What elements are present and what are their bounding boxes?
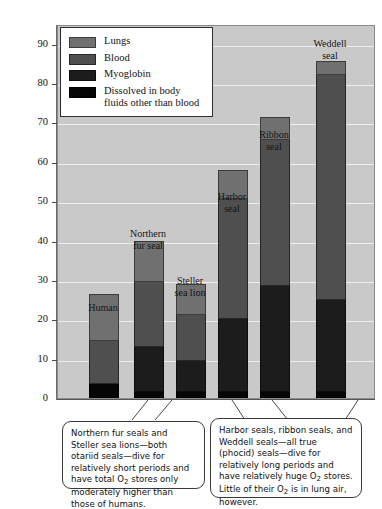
y-tick-mark-60 [52, 163, 57, 164]
dissolved-swatch-icon [69, 87, 96, 98]
y-tick-mark-80 [52, 84, 57, 85]
bar-segment-lungs [316, 61, 346, 75]
legend-item-blood: Blood [69, 52, 206, 65]
legend-item-dissolved: Dissolved in body fluids other than bloo… [69, 85, 206, 109]
y-tick-label-10: 10 [22, 354, 48, 365]
y-tick-label-30: 30 [22, 275, 48, 286]
bar-label-northern-fur-seal: Northern fur seal [119, 228, 177, 251]
bar-segment-myoglobin [260, 286, 290, 392]
y-tick-mark-70 [52, 123, 57, 124]
legend-label-dissolved: Dissolved in body fluids other than bloo… [104, 85, 199, 109]
bar-segment-blood [89, 341, 119, 384]
subscript: 2 [124, 478, 128, 486]
bar-label-weddell-seal: Weddell seal [301, 38, 359, 61]
y-tick-label-20: 20 [22, 314, 48, 325]
legend-item-lungs: Lungs [69, 35, 206, 48]
y-tick-mark-20 [52, 320, 57, 321]
y-tick-mark-10 [52, 360, 57, 361]
bar-segment-dissolved [89, 384, 119, 399]
bar-segment-myoglobin [134, 347, 164, 392]
subscript: 2 [317, 475, 321, 483]
bar-segment-blood [260, 140, 290, 286]
y-tick-label-40: 40 [22, 236, 48, 247]
lungs-swatch-icon [69, 37, 96, 48]
legend-item-myoglobin: Myoglobin [69, 68, 206, 81]
bar-segment-myoglobin [316, 300, 346, 393]
y-tick-mark-40 [52, 242, 57, 243]
legend-label-myoglobin: Myoglobin [104, 68, 151, 80]
y-tick-label-60: 60 [22, 157, 48, 168]
bar-segment-blood [218, 199, 248, 319]
bar-segment-lungs [89, 294, 119, 341]
blood-swatch-icon [69, 54, 96, 65]
legend-label-lungs: Lungs [104, 35, 130, 47]
y-tick-mark-30 [52, 281, 57, 282]
legend-label-blood: Blood [104, 52, 130, 64]
bar-ribbon-seal [260, 26, 290, 399]
bar-segment-blood [316, 75, 346, 299]
chart-figure: Oxygen stores (mL O2/kg) 010203040506070… [0, 0, 382, 509]
y-tick-label-50: 50 [22, 196, 48, 207]
myoglobin-swatch-icon [69, 70, 96, 81]
legend: Lungs Blood Myoglobin Dissolved in body … [60, 27, 213, 117]
y-tick-label-80: 80 [22, 78, 48, 89]
bar-segment-myoglobin [218, 319, 248, 392]
bar-segment-blood [176, 315, 206, 360]
y-tick-label-70: 70 [22, 117, 48, 128]
callout-otariid: Northern fur seals and Steller sea lions… [62, 421, 205, 489]
subscript: 2 [284, 488, 288, 496]
bar-segment-blood [134, 282, 164, 347]
y-tick-mark-50 [52, 202, 57, 203]
callout-phocid: Harbor seals, ribbon seals, and Weddell … [210, 418, 362, 498]
bar-label-ribbon-seal: Ribbon seal [245, 129, 303, 152]
bar-label-human: Human [74, 302, 132, 314]
bar-weddell-seal [316, 26, 346, 399]
y-tick-mark-90 [52, 45, 57, 46]
bar-label-steller-sea-lion: Steller sea lion [161, 275, 219, 298]
bar-label-harbor-seal: Harbor seal [203, 191, 261, 214]
bar-segment-myoglobin [176, 361, 206, 393]
y-tick-label-90: 90 [22, 39, 48, 50]
